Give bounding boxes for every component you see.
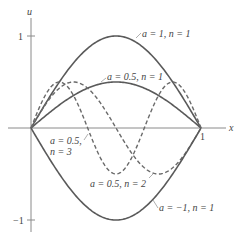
curve-a05-n1 [31,82,201,128]
leader-a1-n1 [136,33,141,38]
leader-a05-n3 [84,134,88,140]
label-a1-n1: a = 1, n = 1 [142,28,191,39]
chart: u x 1 1 −1 a = 1, n = 1 a = 0.5, n = 1 a… [0,0,245,239]
leader-a05-n1 [101,78,106,82]
label-a05-n3-line1: a = 0.5, [50,135,82,146]
label-a05-n3-line2: n = 3 [50,146,72,157]
y-tick-label-neg1: −1 [13,215,24,226]
x-tick-label-1: 1 [200,131,205,142]
leader-aneg1-n1 [153,200,158,208]
leader-a05-n2 [149,174,153,178]
label-aneg1-n1: a = −1, n = 1 [159,202,214,213]
y-axis-label: u [27,6,32,17]
label-a05-n2: a = 0.5, n = 2 [90,178,146,189]
x-axis-label: x [228,122,234,133]
y-tick-label-1: 1 [18,31,23,42]
label-a05-n1: a = 0.5, n = 1 [107,71,163,82]
